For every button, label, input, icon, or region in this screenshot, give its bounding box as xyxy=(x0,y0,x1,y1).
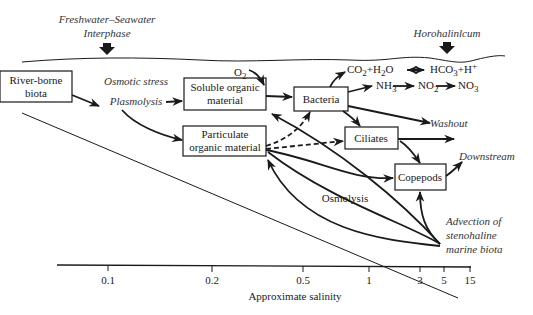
svg-text:CO2+H2O: CO2+H2O xyxy=(347,63,393,78)
svg-text:Copepods: Copepods xyxy=(398,171,442,183)
svg-text:Soluble organic: Soluble organic xyxy=(190,81,259,93)
arrow-bacteria-co2 xyxy=(330,72,345,87)
horohalinicum-arrow-icon xyxy=(439,42,455,54)
interphase-arrow-icon xyxy=(99,43,115,55)
downstream-label: Downstream xyxy=(458,150,515,162)
svg-text:HCO3+H+: HCO3+H+ xyxy=(430,61,477,78)
arrow-ciliates-copepods xyxy=(400,141,420,163)
node-particulate-organic-material: Particulate organic material xyxy=(183,126,266,156)
tick-15: 15 xyxy=(465,274,477,286)
arrow-plasmolysis-soluble xyxy=(166,101,182,102)
co2-h2o-label: CO2+H2O xyxy=(347,63,393,78)
tick-1: 1 xyxy=(366,274,372,286)
svg-text:Particulate: Particulate xyxy=(201,128,248,140)
node-ciliates: Ciliates xyxy=(345,127,398,149)
osmotic-stress-label: Osmotic stress xyxy=(104,75,168,87)
arrow-soluble-bacteria xyxy=(266,96,292,97)
hco3-hplus-label: HCO3+H+ xyxy=(430,61,477,78)
node-copepods: Copepods xyxy=(395,164,446,190)
advection-label-line3: marine biota xyxy=(446,243,503,255)
washout-label: Washout xyxy=(430,117,468,129)
arrow-biota-plasmolysis xyxy=(72,95,99,106)
svg-text:Ciliates: Ciliates xyxy=(354,132,388,144)
svg-text:organic material: organic material xyxy=(189,141,261,153)
plasmolysis-label: Plasmolysis xyxy=(109,95,163,107)
axis-title: Approximate salinity xyxy=(248,290,342,302)
advection-label-line2: stenohaline xyxy=(446,229,497,241)
svg-text:Bacteria: Bacteria xyxy=(303,93,340,105)
tick-0-1: 0.1 xyxy=(101,274,115,286)
no3-label: NO3 xyxy=(458,79,479,94)
svg-text:River-borne: River-borne xyxy=(10,74,63,86)
water-surface-line xyxy=(22,56,505,63)
node-bacteria: Bacteria xyxy=(294,87,348,111)
interphase-label-line2: Interphase xyxy=(82,27,130,39)
advection-label-line1: Advection of xyxy=(445,215,503,227)
tick-5: 5 xyxy=(441,274,447,286)
arrow-copepods-downstream xyxy=(446,162,462,176)
tick-0-5: 0.5 xyxy=(296,274,310,286)
svg-text:material: material xyxy=(207,94,243,106)
svg-text:biota: biota xyxy=(25,87,47,99)
estuary-food-web-diagram: Freshwater–Seawater Interphase Horohalin… xyxy=(0,0,533,315)
arrow-bacteria-washout xyxy=(348,106,430,123)
arrow-particulate-bacteria xyxy=(266,112,310,146)
svg-text:NO3: NO3 xyxy=(458,79,479,94)
no2-label: NO2 xyxy=(418,79,438,94)
arrow-bacteria-ciliates xyxy=(343,111,360,126)
osmolysis-label: Osmolysis xyxy=(322,192,368,204)
node-soluble-organic-material: Soluble organic material xyxy=(184,78,266,110)
tick-3: 3 xyxy=(417,274,423,286)
interphase-label-line1: Freshwater–Seawater xyxy=(58,13,156,25)
arrow-bacteria-nh3 xyxy=(348,86,372,92)
horohalinicum-label: Horohalinlcum xyxy=(413,27,481,39)
tick-0-2: 0.2 xyxy=(205,274,219,286)
svg-text:NO2: NO2 xyxy=(418,79,438,94)
arrow-marine-copepods xyxy=(420,192,440,244)
arrow-plasmolysis-particulate xyxy=(122,110,182,140)
salinity-axis: 0.1 0.2 0.5 1 3 5 15 Approximate salinit… xyxy=(57,265,476,302)
node-river-borne-biota: River-borne biota xyxy=(0,71,72,102)
